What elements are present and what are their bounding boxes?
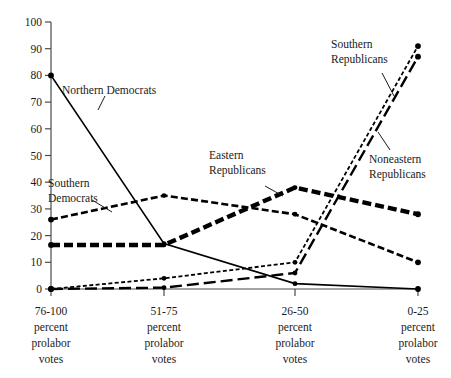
leader-northern-democrats: [98, 96, 105, 110]
data-point: [48, 217, 54, 223]
x-tick-label-2-line2: percent: [278, 321, 313, 334]
annotation-southern-republicans-line2: Republicans: [331, 53, 388, 66]
data-point: [415, 286, 421, 292]
series-eastern-republicans: [48, 185, 421, 248]
x-tick-label-group-3: 0-25 percent prolabor votes: [399, 305, 438, 365]
y-tick-label-30: 30: [31, 203, 43, 215]
data-point: [48, 286, 54, 292]
y-tick-label-100: 100: [25, 16, 43, 28]
series-line: [51, 196, 418, 263]
x-tick-label-1-line4: votes: [152, 353, 177, 365]
x-tick-label-0-line4: votes: [39, 353, 64, 365]
x-axis: [51, 289, 418, 296]
series-northern-democrats: [48, 73, 421, 292]
data-point: [293, 185, 298, 190]
annotation-northern-democrats: Northern Democrats: [62, 84, 157, 96]
x-tick-label-2-line4: votes: [283, 353, 308, 365]
y-tick-label-70: 70: [31, 96, 43, 108]
data-point: [162, 285, 167, 290]
series-line: [51, 188, 418, 245]
data-point: [48, 242, 54, 248]
x-tick-label-1-line3: prolabor: [145, 337, 184, 350]
annotation-southern-republicans-line1: Southern: [331, 38, 373, 50]
data-point: [162, 193, 167, 198]
data-point: [415, 259, 421, 265]
x-tick-label-3-line1: 0-25: [407, 305, 428, 317]
y-tick-label-10: 10: [31, 256, 43, 268]
x-tick-label-group-0: 76-100 percent prolabor votes: [32, 305, 71, 365]
leader-noneastern-republicans: [378, 132, 390, 150]
annotation-southern-democrats-line2: Democrats: [48, 192, 98, 204]
y-tick-label-60: 60: [31, 123, 43, 135]
x-tick-label-group-1: 51-75 percent prolabor votes: [145, 305, 184, 365]
annotation-eastern-republicans-line1: Eastern: [209, 149, 244, 161]
y-tick-label-40: 40: [31, 176, 43, 188]
data-point: [162, 276, 167, 281]
leader-eastern-republicans: [265, 186, 283, 196]
data-point: [162, 243, 167, 248]
y-tick-label-80: 80: [31, 69, 43, 81]
y-tick-label-0: 0: [36, 283, 42, 295]
data-point: [48, 73, 54, 79]
y-axis: 100 90 80 70 60 50 40 30 20 10 0: [25, 16, 51, 295]
y-tick-label-90: 90: [31, 43, 43, 55]
data-point: [293, 271, 298, 276]
data-point: [415, 211, 421, 217]
x-tick-label-0-line3: prolabor: [32, 337, 71, 350]
data-point: [415, 54, 421, 60]
data-point: [293, 281, 298, 286]
series-line: [51, 75, 418, 289]
annotation-southern-democrats-line1: Southern: [48, 177, 90, 189]
x-tick-label-1-line1: 51-75: [151, 305, 178, 317]
x-tick-label-0-line2: percent: [34, 321, 69, 334]
x-tick-label-3-line4: votes: [406, 353, 431, 365]
x-tick-label-2-line3: prolabor: [276, 337, 315, 350]
annotation-noneastern-republicans-line1: Noneastern: [369, 153, 422, 165]
x-tick-label-group-2: 26-50 percent prolabor votes: [276, 305, 315, 365]
annotation-noneastern-republicans-line2: Republicans: [369, 168, 426, 181]
annotation-eastern-republicans-line2: Republicans: [209, 164, 266, 177]
y-tick-label-20: 20: [31, 230, 43, 242]
x-tick-label-3-line2: percent: [401, 321, 436, 334]
data-point: [293, 212, 298, 217]
leader-southern-republicans: [382, 73, 394, 96]
data-point: [415, 43, 421, 49]
x-tick-label-3-line3: prolabor: [399, 337, 438, 350]
x-tick-label-0-line1: 76-100: [35, 305, 68, 317]
y-tick-label-50: 50: [31, 150, 43, 162]
line-chart: 100 90 80 70 60 50 40 30 20 10 0 76-100 …: [0, 0, 451, 378]
x-tick-label-2-line1: 26-50: [282, 305, 309, 317]
data-point: [293, 260, 298, 265]
x-tick-label-1-line2: percent: [147, 321, 182, 334]
